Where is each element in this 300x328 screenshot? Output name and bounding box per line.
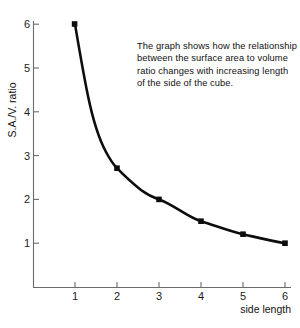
annotation-line: of the side of the cube. [137,77,297,89]
annotation-line: ratio changes with increasing length [137,65,297,77]
data-point [114,165,120,171]
chart-annotation-text: The graph shows how the relationship bet… [137,40,297,90]
chart-figure: 6 5 4 3 2 1 1 2 3 4 5 6 [0,0,300,328]
data-point [282,240,288,246]
x-axis-ticks [75,282,285,288]
annotation-line: between the surface area to volume [137,52,297,64]
x-axis-tick-labels: 1 2 3 4 5 6 [72,290,288,302]
x-tick-label: 3 [156,290,162,302]
annotation-line: The graph shows how the relationship [137,40,297,52]
data-point [156,197,162,203]
y-tick-label: 1 [24,237,30,249]
data-point [72,21,78,27]
y-axis-ticks [34,24,40,243]
y-tick-label: 2 [24,193,30,205]
data-point [198,218,204,224]
y-axis-title: S.A./V. ratio [6,82,18,137]
y-axis-tick-labels: 6 5 4 3 2 1 [24,18,30,249]
x-tick-label: 6 [282,290,288,302]
x-tick-label: 4 [198,290,204,302]
x-tick-label: 1 [72,290,78,302]
x-tick-label: 5 [240,290,246,302]
y-tick-label: 3 [24,150,30,162]
y-tick-label: 5 [24,62,30,74]
data-point [240,231,246,237]
y-tick-label: 6 [24,18,30,30]
x-tick-label: 2 [114,290,120,302]
y-tick-label: 4 [24,106,30,118]
x-axis-title: side length [240,303,291,315]
